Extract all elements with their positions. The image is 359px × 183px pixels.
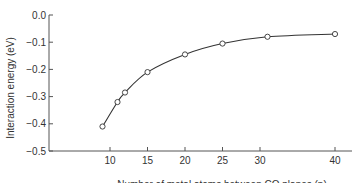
y-axis-title: Interaction energy (eV) [5,37,16,139]
chart-canvas: 0.0−0.1−0.2−0.3−0.4−0.5101520253040 Inte… [0,0,359,183]
data-series [100,31,338,129]
y-tick-label: −0.4 [26,118,46,129]
data-point-marker [332,31,337,36]
y-tick-label: −0.1 [26,37,46,48]
y-tick-label: −0.3 [26,91,46,102]
data-point-marker [145,70,150,75]
x-tick-label: 30 [254,155,266,166]
y-tick-label: −0.5 [26,146,46,157]
x-tick-label: 15 [142,155,154,166]
data-point-marker [220,41,225,46]
x-tick-label: 10 [104,155,116,166]
x-tick-label: 25 [217,155,229,166]
y-tick-label: −0.2 [26,64,46,75]
series-line [103,34,336,126]
data-point-marker [115,99,120,104]
data-point-marker [100,124,105,129]
x-axis-title: Number of metal atoms between CO planes … [117,179,327,183]
x-tick-label: 20 [179,155,191,166]
x-tick-label: 40 [329,155,341,166]
y-tick-label: 0.0 [32,10,46,21]
data-point-marker [182,52,187,57]
data-point-marker [265,34,270,39]
ticks: 0.0−0.1−0.2−0.3−0.4−0.5101520253040 [26,10,341,167]
data-point-marker [122,90,127,95]
